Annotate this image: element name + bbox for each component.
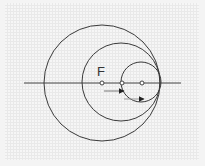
focus-point-F (100, 81, 104, 85)
circle-diagram: F (0, 0, 205, 166)
inner-center-point (140, 81, 144, 85)
middle-center-point (120, 81, 124, 85)
focus-label: F (97, 64, 105, 79)
